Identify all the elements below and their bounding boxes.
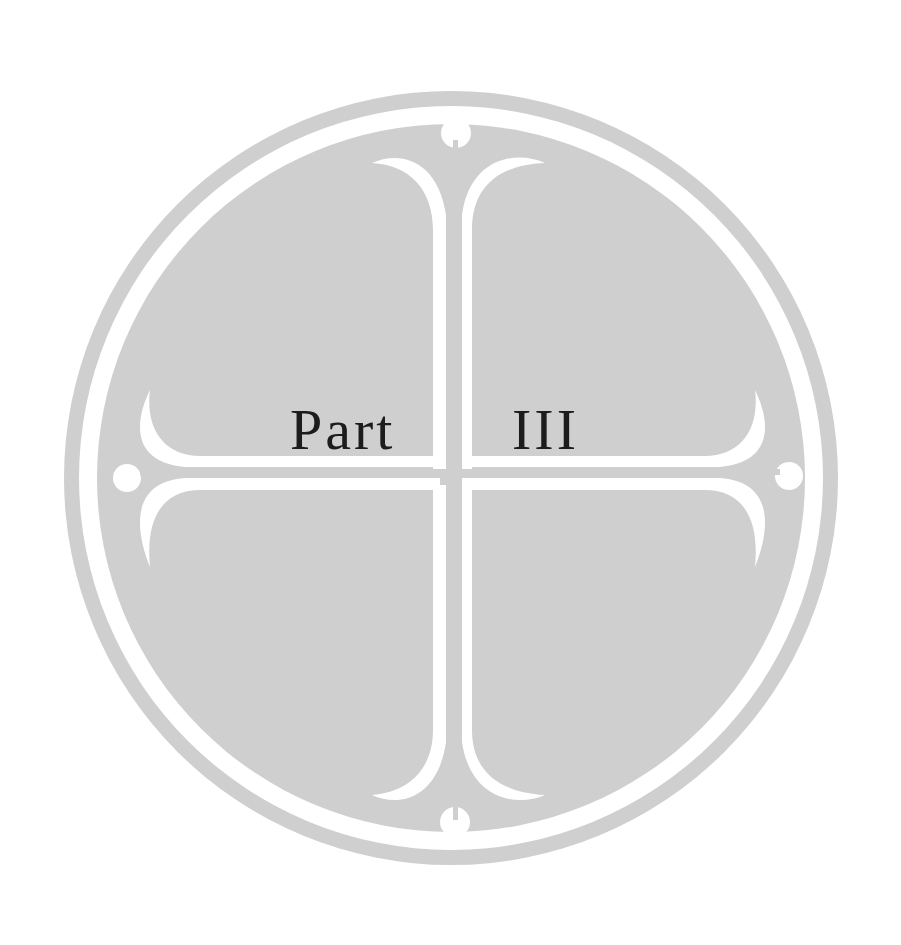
cross-vertical-line	[453, 140, 458, 820]
heading-numeral: III	[512, 397, 579, 462]
heading-word: Part	[290, 397, 395, 462]
left-dot	[113, 464, 141, 492]
right-dot	[775, 462, 803, 490]
cross-horizontal-line	[140, 469, 780, 475]
part-emblem: Part III	[0, 0, 901, 945]
